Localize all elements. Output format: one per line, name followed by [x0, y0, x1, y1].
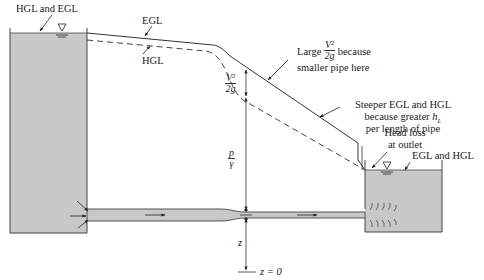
velocity-head-fraction: V² 2g — [225, 73, 236, 94]
label-egl-and-hgl-right: EGL and HGL — [412, 150, 474, 162]
label-steeper-line1: Steeper EGL and HGL — [343, 99, 463, 111]
left-reservoir — [10, 28, 87, 233]
large-prefix: Large — [297, 46, 321, 57]
label-smaller-pipe-here: smaller pipe here — [297, 62, 369, 74]
velocity-head-fraction-inline: V² 2g — [324, 40, 335, 61]
pipe — [87, 209, 365, 221]
label-z-datum: z = 0 — [260, 266, 282, 278]
label-large-velocity-head: Large V² 2g because — [297, 42, 371, 63]
water-surface-symbol-left — [56, 24, 68, 37]
label-hgl: HGL — [142, 55, 164, 67]
label-z: z — [238, 237, 242, 249]
large-suffix: because — [338, 46, 371, 57]
pressure-head-fraction: p γ — [228, 148, 235, 169]
label-head-loss: Head loss — [370, 127, 440, 139]
label-egl: EGL — [142, 15, 162, 27]
label-hgl-and-egl-left: HGL and EGL — [16, 3, 78, 15]
water-surface-symbol-right — [381, 162, 393, 174]
